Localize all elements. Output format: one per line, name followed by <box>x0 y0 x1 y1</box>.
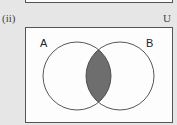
set-b-label: B <box>146 37 153 49</box>
venn-diagram <box>0 0 177 125</box>
set-a-label: A <box>40 37 47 49</box>
